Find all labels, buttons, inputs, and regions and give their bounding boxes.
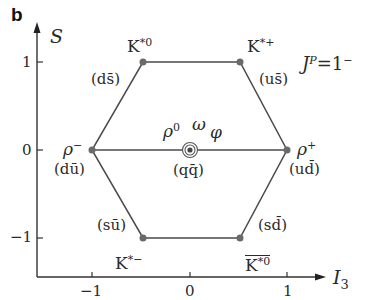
- x-axis-label: I3: [333, 268, 349, 291]
- meson-phi: φ: [210, 124, 222, 141]
- meson-rho-minus-sup: −: [73, 139, 82, 152]
- y-axis-arrow-icon: [34, 22, 41, 33]
- meson-anti-k-star-0-overline: K*0: [245, 255, 270, 274]
- center-dot: [187, 147, 192, 152]
- meson-rho-plus-base: ρ: [297, 139, 307, 159]
- y-axis-label: S: [50, 27, 63, 46]
- dot-rhominus: [89, 147, 96, 154]
- y-tick-label-minus1: −1: [10, 230, 32, 245]
- dot-kminus: [140, 235, 147, 242]
- quark-qq-bar: (qq̄): [173, 163, 204, 178]
- quark-sd-bar: (sd̄): [258, 218, 287, 233]
- dot-kplus: [237, 59, 244, 66]
- jp-title-eq: =: [317, 53, 332, 74]
- jp-title: JP=1−: [302, 55, 352, 73]
- panel-label: b: [11, 5, 23, 24]
- y-tick-label-0: 0: [22, 143, 32, 158]
- jp-title-p: P: [309, 54, 316, 67]
- meson-k-star-plus-base: K: [247, 36, 260, 56]
- quark-su-bar: (sū): [97, 218, 126, 233]
- meson-k-star-0-base: K: [127, 36, 140, 56]
- meson-rho-0-sup: 0: [173, 121, 180, 134]
- meson-anti-k-star-0-sup: *0: [258, 255, 271, 268]
- jp-title-sign: −: [343, 54, 352, 67]
- meson-omega: ω: [192, 116, 206, 133]
- meson-k-star-0: K*0: [127, 38, 152, 55]
- x-axis-label-sub: 3: [341, 277, 349, 292]
- x-tick-label-1: 1: [283, 284, 293, 299]
- quark-ds-bar: (ds̄): [91, 72, 120, 87]
- meson-rho-plus-sup: +: [307, 139, 316, 152]
- quark-us-bar: (us̄): [259, 72, 288, 87]
- meson-octet-diagram: b S I3 1 0 −1 −1 0 1 JP=1− K*0 (ds̄) K*+…: [0, 0, 372, 300]
- x-axis-arrow-icon: [315, 274, 326, 281]
- y-tick-label-1: 1: [22, 55, 32, 70]
- x-tick-label-0: 0: [185, 284, 195, 299]
- meson-k-star-minus-sup: *−: [128, 253, 143, 266]
- meson-rho-minus-base: ρ: [63, 139, 73, 159]
- dot-k0bar: [237, 235, 244, 242]
- meson-rho-minus: ρ−: [63, 141, 82, 158]
- meson-rho-0: ρ0: [163, 123, 180, 140]
- meson-k-star-plus: K*+: [247, 38, 274, 55]
- dot-rhoplus: [284, 147, 291, 154]
- quark-ud-bar: (ud̄): [289, 162, 320, 177]
- jp-title-val: 1: [332, 53, 343, 74]
- x-axis-label-main: I: [333, 266, 341, 288]
- dot-k0: [140, 59, 147, 66]
- meson-anti-k-star-0-base: K: [245, 255, 258, 275]
- x-tick-label-minus1: −1: [80, 284, 102, 299]
- meson-rho-plus: ρ+: [297, 141, 316, 158]
- meson-k-star-minus: K*−: [115, 255, 142, 272]
- quark-du-bar: (dū): [54, 162, 85, 177]
- meson-k-star-minus-base: K: [115, 253, 128, 273]
- meson-rho-0-base: ρ: [163, 121, 173, 141]
- meson-k-star-plus-sup: *+: [260, 36, 275, 49]
- meson-anti-k-star-0: K*0: [245, 255, 270, 274]
- meson-k-star-0-sup: *0: [140, 36, 153, 49]
